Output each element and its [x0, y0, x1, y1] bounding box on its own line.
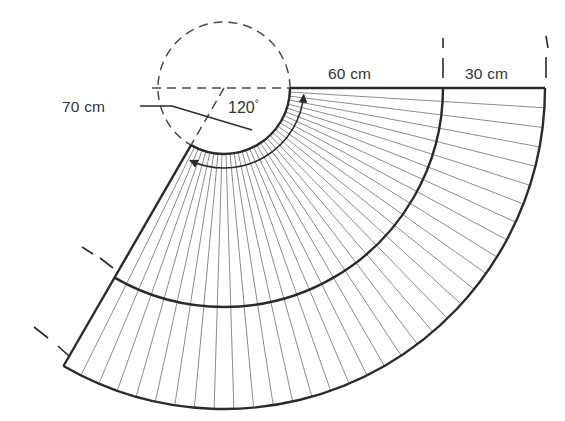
label-70cm: 70 cm: [62, 98, 105, 115]
dimension-layer: [34, 36, 548, 357]
radial-division-line: [290, 92, 545, 108]
radial-division-line: [246, 150, 331, 391]
extension-tick-mid-arc-a: [100, 258, 113, 268]
angle-leg-dashed: [189, 88, 224, 149]
radial-division-line: [288, 104, 535, 166]
radial-division-line: [117, 150, 202, 391]
radial-division-line: [230, 154, 254, 408]
degree-symbol: °: [255, 98, 259, 109]
radial-division-line: [81, 147, 195, 375]
sector-diagram-svg: 70 cm 60 cm 30 cm 120°: [0, 0, 565, 421]
radial-division-line: [282, 119, 507, 240]
radial-division-line: [264, 141, 418, 344]
radial-division-line: [155, 152, 210, 401]
radial-division-line: [214, 154, 222, 409]
radial-division-line: [289, 100, 540, 147]
label-angle-value: 120: [228, 99, 255, 116]
radial-division-line: [275, 129, 474, 289]
radial-division-line: [286, 112, 524, 204]
lower-left-radial-edge: [64, 145, 192, 366]
radial-division-line: [284, 116, 516, 223]
radial-division-line: [280, 123, 497, 257]
label-60cm: 60 cm: [328, 65, 371, 82]
radial-division-line: [287, 108, 530, 185]
radial-division-line: [267, 138, 433, 332]
extension-tick-outer-arc-a: [58, 346, 70, 357]
label-angle-120: 120°: [228, 98, 259, 116]
radial-line-layer: [81, 92, 544, 409]
radial-division-line: [238, 152, 293, 401]
extension-tick-right-upper: [546, 36, 548, 48]
inner-arc-70cm: [191, 88, 290, 154]
extension-tick-mid-arc-b: [82, 247, 93, 254]
radial-division-line: [194, 154, 218, 408]
radial-division-lines: [81, 92, 544, 409]
label-30cm: 30 cm: [465, 65, 508, 82]
diagram-root: 70 cm 60 cm 30 cm 120°: [0, 0, 565, 421]
extension-tick-outer-arc-b: [34, 327, 48, 338]
radial-division-line: [273, 132, 461, 304]
radial-division-line: [290, 96, 543, 127]
radial-division-line: [226, 154, 234, 409]
radial-division-line: [253, 147, 367, 375]
